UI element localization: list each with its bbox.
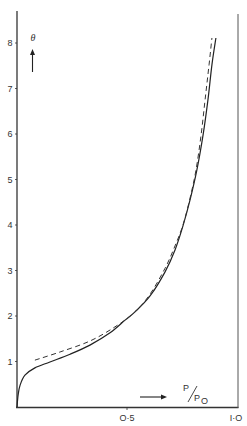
x-tick-label-0-5: O·5 — [119, 413, 134, 423]
svg-text:P: P — [194, 393, 200, 403]
y-axis-label: θ — [31, 32, 36, 43]
solid-curve — [17, 38, 216, 407]
y-tick-label: 3 — [7, 266, 12, 276]
right-arrow-icon — [140, 395, 167, 400]
dashed-curve — [35, 38, 212, 360]
isotherm-chart: 12345678 O·5 I·O θ P P O — [0, 0, 247, 426]
x-tick-label-1-0: I·O — [230, 413, 243, 423]
y-tick-label: 8 — [7, 38, 12, 48]
y-tick-label: 7 — [7, 84, 12, 94]
y-ticks: 12345678 — [7, 38, 17, 367]
x-axis-label: P P O — [183, 383, 208, 406]
y-tick-label: 1 — [7, 357, 12, 367]
y-tick-label: 5 — [7, 175, 12, 185]
up-arrow-icon — [30, 49, 35, 72]
y-tick-label: 4 — [7, 220, 12, 230]
y-tick-label: 2 — [7, 311, 12, 321]
y-tick-label: 6 — [7, 129, 12, 139]
svg-text:O: O — [201, 396, 208, 406]
svg-text:P: P — [183, 383, 189, 393]
